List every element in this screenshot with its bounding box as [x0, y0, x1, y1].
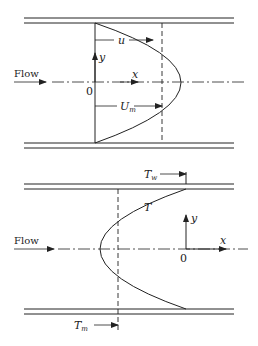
- flow-label: Flow: [14, 68, 39, 79]
- x-axis-label: x: [220, 234, 227, 247]
- velocity-profile-diagram: Flow u y x 0 Um: [14, 18, 246, 148]
- velocity-parabola: [95, 23, 181, 143]
- flow-label: Flow: [14, 235, 39, 246]
- tw-label: Tw: [144, 168, 157, 182]
- origin-label: 0: [86, 85, 93, 98]
- origin-label: 0: [180, 252, 187, 265]
- y-axis-label: y: [190, 212, 198, 225]
- diagram-canvas: Flow u y x 0 Um Tw: [0, 0, 258, 346]
- tm-label: Tm: [74, 319, 88, 333]
- um-label: Um: [120, 100, 136, 114]
- y-axis-label: y: [98, 51, 106, 64]
- temperature-profile-diagram: Tw Flow T y x 0 Tm: [14, 168, 248, 333]
- x-axis-label: x: [132, 68, 139, 81]
- u-label: u: [118, 34, 125, 47]
